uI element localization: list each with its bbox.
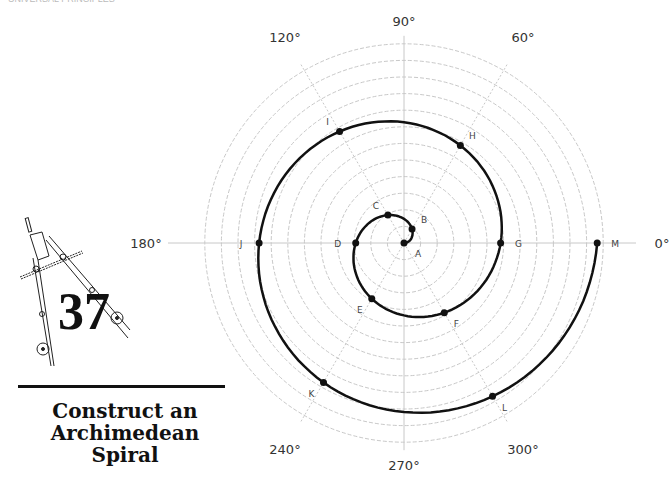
spiral-point-j: [256, 240, 263, 247]
spiral-point-c: [384, 212, 391, 219]
point-label-b: B: [421, 215, 427, 225]
axis-label: 300°: [507, 442, 538, 457]
radial-axis: [300, 243, 404, 422]
spiral-point-a: [401, 240, 408, 247]
title-line-1: Construct an: [10, 400, 240, 422]
axis-label: 120°: [269, 30, 300, 45]
title-line-3: Spiral: [10, 444, 240, 466]
title-line-2: Archimedean: [10, 422, 240, 444]
axis-label: 90°: [392, 14, 415, 29]
point-label-k: K: [309, 389, 316, 399]
point-label-i: I: [326, 117, 329, 127]
spiral-point-k: [320, 379, 327, 386]
divider-rule: [18, 385, 225, 388]
spiral-point-m: [594, 240, 601, 247]
spiral-point-d: [352, 240, 359, 247]
compass-icon: [0, 180, 140, 370]
point-label-g: G: [515, 239, 522, 249]
spiral-point-g: [497, 240, 504, 247]
axis-label: 0°: [655, 236, 670, 251]
spiral-point-h: [457, 142, 464, 149]
spiral-point-l: [489, 393, 496, 400]
spiral-point-b: [409, 226, 416, 233]
spiral-point-f: [441, 309, 448, 316]
spiral-point-i: [336, 128, 343, 135]
activity-number: 37: [58, 282, 110, 341]
point-label-h: H: [469, 131, 476, 141]
spiral-point-e: [368, 295, 375, 302]
point-label-l: L: [502, 403, 507, 413]
point-label-f: F: [454, 319, 459, 329]
point-label-a: A: [415, 249, 422, 259]
point-label-d: D: [334, 239, 341, 249]
axis-label: 60°: [511, 30, 534, 45]
axis-label: 240°: [269, 442, 300, 457]
radial-axis: [404, 64, 508, 243]
point-label-c: C: [373, 201, 379, 211]
axis-label: 270°: [388, 458, 419, 473]
point-label-m: M: [611, 239, 619, 249]
point-label-j: J: [239, 239, 243, 249]
title-block: Construct an Archimedean Spiral: [10, 400, 240, 466]
point-label-e: E: [357, 305, 363, 315]
spiral-curve: [258, 121, 597, 412]
